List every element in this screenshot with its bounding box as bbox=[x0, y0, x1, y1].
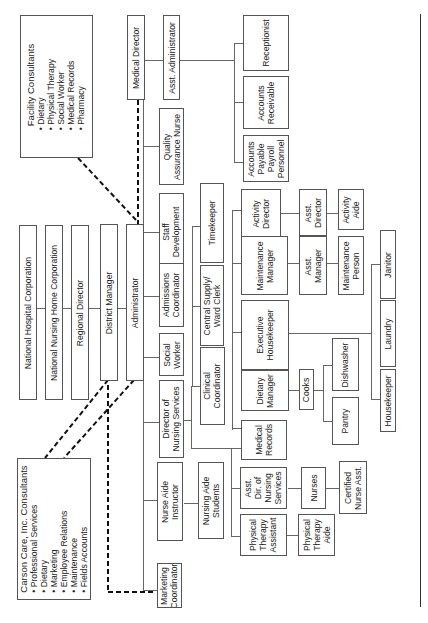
connector bbox=[232, 210, 233, 430]
connector bbox=[232, 263, 241, 264]
consultant-item: • Dietary bbox=[37, 43, 47, 129]
connector bbox=[323, 365, 324, 421]
dishwasher-box: Dishwasher bbox=[332, 338, 359, 391]
connector bbox=[143, 357, 159, 358]
executive-housekeeper-box: ExecutiveHousekeeper bbox=[241, 300, 289, 370]
consultant-item: • Professional Services bbox=[29, 465, 39, 592]
janitor-box: Janitor bbox=[380, 230, 396, 299]
connector bbox=[231, 448, 241, 449]
connector bbox=[371, 264, 380, 265]
connector bbox=[192, 226, 200, 227]
connector bbox=[289, 390, 299, 391]
connector bbox=[191, 448, 231, 449]
maintenance-manager-box: MaintenanceManager bbox=[241, 236, 288, 295]
consultant-item: • Maintenance bbox=[69, 465, 79, 592]
district-manager-box: District Manager bbox=[100, 224, 118, 381]
carson-care-consultants-box: Carson Care, Inc. Consultants • Professi… bbox=[17, 458, 91, 600]
activity-director-box: ActivityDirector bbox=[241, 189, 281, 238]
physical-therapy-assistant-box: PhysicalTherapyAssistant bbox=[240, 514, 287, 556]
connector bbox=[143, 60, 163, 61]
connector bbox=[325, 488, 339, 489]
facility-consultants-box: Facility Consultants • Dietary • Physica… bbox=[20, 15, 93, 158]
asst-director-box: Asst.Director bbox=[299, 189, 327, 236]
laundry-box: Laundry bbox=[380, 300, 396, 367]
consultant-item: • Employee Relations bbox=[59, 465, 69, 592]
clinical-coordinator-box: ClinicalCoordinator bbox=[200, 347, 225, 425]
connector bbox=[234, 162, 243, 163]
medical-records-box: MedicalRecords bbox=[241, 420, 287, 460]
connector bbox=[143, 422, 159, 423]
medical-director-box: Medical Director bbox=[127, 15, 145, 100]
accounts-receivable-box: AccountsReceivable bbox=[243, 76, 289, 129]
connector bbox=[314, 390, 323, 391]
connector bbox=[288, 488, 301, 489]
carson-care-title: Carson Care, Inc. Consultants bbox=[19, 465, 29, 592]
connector bbox=[327, 213, 338, 214]
physical-therapy-aide-box: PhysicalTherapyAide bbox=[298, 514, 335, 556]
dietary-manager-box: DietaryManager bbox=[241, 370, 289, 411]
facility-consultants-title: Facility Consultants bbox=[27, 43, 37, 129]
page-margin-rule bbox=[420, 14, 421, 607]
consultant-item: • Social Worker bbox=[57, 43, 67, 129]
national-nursing-home-corporation-box: National Nursing Home Corporation bbox=[45, 225, 63, 400]
connector bbox=[281, 213, 299, 214]
administrator-box: Administrator bbox=[126, 224, 144, 381]
timekeeper-box: Timekeeper bbox=[200, 183, 224, 263]
quality-assurance-nurse-box: QualityAssurance Nurse bbox=[159, 108, 184, 185]
connector bbox=[323, 365, 332, 366]
social-worker-box: SocialWorker bbox=[159, 333, 184, 376]
connector bbox=[183, 420, 191, 421]
connector bbox=[371, 399, 380, 400]
accounts-payable-box: AccountsPayablePayrollPersonnel bbox=[243, 135, 289, 182]
connector bbox=[289, 333, 371, 334]
nurses-box: Nurses bbox=[301, 467, 326, 509]
regional-director-box: Regional Director bbox=[71, 225, 89, 400]
connector bbox=[192, 386, 200, 387]
certified-nurse-asst-box: CertifiedNurse Asst. bbox=[339, 461, 367, 514]
marketing-coordinator-box: MarketingCoordinator bbox=[157, 563, 182, 608]
admissions-coordinator-box: AdmissionsCoordinator bbox=[159, 263, 184, 327]
connector bbox=[287, 535, 298, 536]
connector bbox=[231, 448, 232, 536]
pantry-box: Pantry bbox=[332, 397, 359, 445]
connector bbox=[232, 210, 241, 211]
national-hospital-corporation-box: National Hospital Corporation bbox=[19, 225, 37, 400]
connector bbox=[234, 102, 243, 103]
nurse-aide-instructor-box: Nurse AideInstructor bbox=[157, 462, 183, 541]
consultant-item: • Marketing bbox=[49, 465, 59, 592]
maintenance-person-box: MaintenancePerson bbox=[338, 236, 364, 295]
consultant-item: • Fields Accounts bbox=[79, 465, 89, 592]
connector bbox=[232, 332, 241, 333]
connector bbox=[191, 386, 192, 448]
consultant-item: • Medical Records bbox=[67, 43, 77, 129]
connector bbox=[232, 428, 241, 429]
connector bbox=[192, 306, 200, 307]
connector bbox=[143, 296, 159, 297]
asst-manager-box: Asst.Manager bbox=[299, 236, 327, 295]
cooks-box: Cooks bbox=[299, 369, 314, 410]
consultant-item: • Physical Therapy bbox=[47, 43, 57, 129]
connector bbox=[234, 43, 243, 44]
activity-aide-box: ActivityAide bbox=[338, 189, 364, 230]
connector bbox=[371, 264, 372, 399]
housekeeper-box: Housekeeper bbox=[380, 369, 396, 432]
nursing-aide-students-box: Nursing AideStudents bbox=[198, 462, 224, 539]
connector bbox=[143, 146, 159, 147]
staff-development-box: StaffDevelopment bbox=[159, 193, 184, 271]
receptionist-box: Receptionist bbox=[243, 15, 289, 71]
connector bbox=[234, 43, 235, 163]
asst-dir-of-nursing-services-box: Asst.Dir. ofNursingServices bbox=[240, 467, 287, 509]
connector bbox=[327, 263, 338, 264]
central-supply-ward-clerk-box: Central Supply/Ward Clerk bbox=[200, 265, 224, 346]
consultant-item: • Pharmacy bbox=[77, 43, 87, 129]
director-of-nursing-services-box: Director ofNursing Services bbox=[159, 380, 184, 458]
connector bbox=[323, 421, 332, 422]
asst-administrator-box: Asst. Administrator bbox=[163, 15, 180, 100]
connector bbox=[180, 60, 234, 61]
connector bbox=[288, 263, 299, 264]
connector bbox=[184, 503, 198, 504]
consultant-item: • Dietary bbox=[39, 465, 49, 592]
connector bbox=[143, 232, 159, 233]
